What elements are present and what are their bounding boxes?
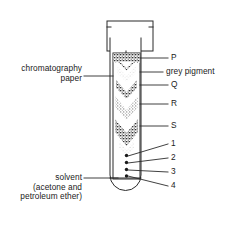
label-spot-4: 4	[171, 181, 176, 191]
spot-3-dot	[125, 168, 128, 171]
label-chromatography-paper: chromatography paper	[0, 64, 82, 83]
label-spot-3: 3	[171, 167, 176, 177]
label-solvent: solvent (acetone and petroleum ether)	[0, 173, 82, 202]
label-band-p: P	[171, 53, 177, 63]
label-chromatography-paper-line2: paper	[0, 74, 82, 84]
label-band-r: R	[171, 99, 177, 109]
label-solvent-line3: petroleum ether)	[0, 192, 82, 202]
label-spot-2: 2	[171, 153, 176, 163]
spot-1-dot	[125, 154, 128, 157]
label-spot-1: 1	[171, 139, 176, 149]
label-band-grey-pigment: grey pigment	[166, 67, 215, 77]
label-band-q: Q	[171, 80, 178, 90]
spot-2-dot	[125, 161, 128, 164]
label-band-s: S	[171, 121, 177, 131]
